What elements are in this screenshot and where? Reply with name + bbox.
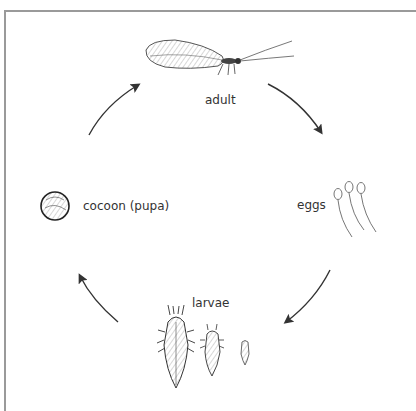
life-cycle-artwork	[0, 0, 416, 411]
stage-label-eggs: eggs	[297, 198, 326, 212]
stage-label-adult: adult	[205, 93, 236, 107]
adult-lacewing-icon	[146, 40, 294, 75]
arrow-adult-to-eggs-icon	[268, 84, 321, 132]
arrow-larvae-to-cocoon-icon	[80, 276, 118, 322]
larva-small-icon	[241, 341, 249, 366]
arrow-eggs-to-larvae-icon	[286, 270, 330, 322]
arrow-cocoon-to-adult-icon	[89, 85, 138, 135]
stage-label-larvae: larvae	[192, 296, 229, 310]
eggs-icon	[334, 182, 376, 238]
stage-label-cocoon: cocoon (pupa)	[83, 199, 169, 213]
larva-medium-icon	[200, 324, 224, 376]
larva-large-icon	[157, 305, 195, 388]
cocoon-icon	[41, 192, 69, 220]
